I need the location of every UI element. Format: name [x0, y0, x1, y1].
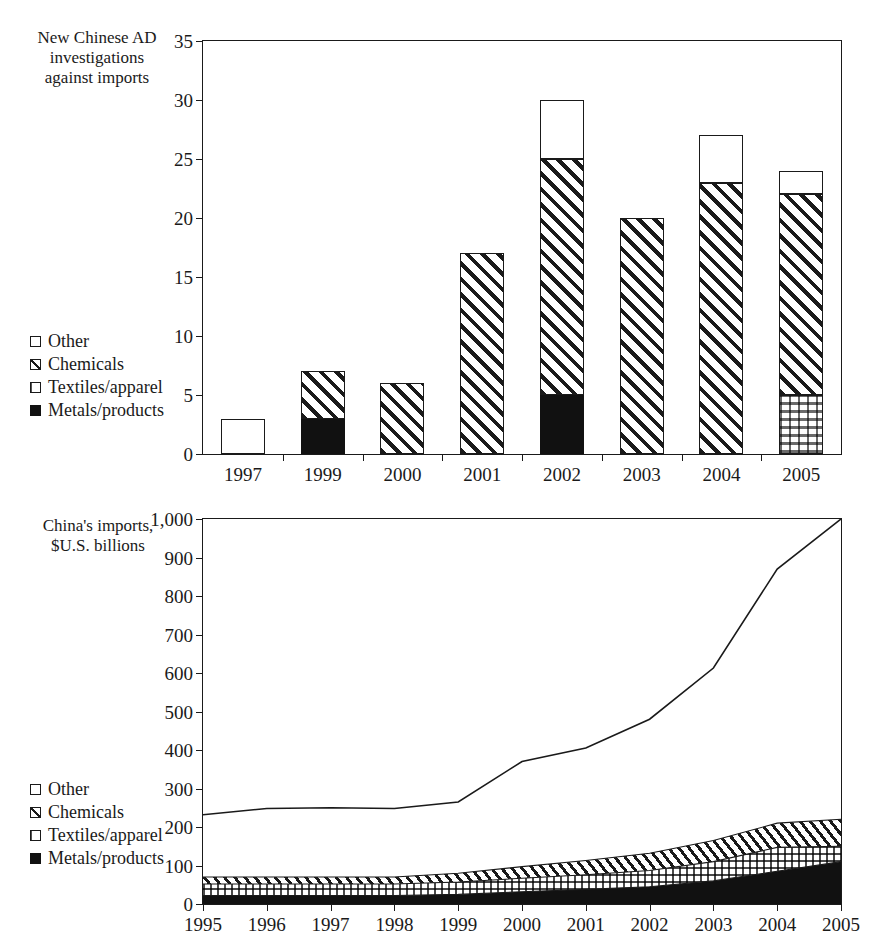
bar-stack[interactable]: [699, 135, 743, 454]
y-axis-tick: [196, 635, 203, 636]
bar-stack[interactable]: [620, 218, 664, 454]
x-axis-tick-label: 2005: [822, 915, 860, 934]
bar-segment-chemicals: [301, 371, 345, 418]
y-axis-tick-label: 10: [174, 327, 193, 346]
x-axis-tick: [761, 454, 762, 461]
y-axis-tick-label: 600: [165, 664, 194, 683]
y-axis-tick: [196, 218, 203, 219]
x-axis-tick: [267, 904, 268, 911]
boundary-textiles: [203, 846, 841, 884]
square-chemicals-icon: [30, 359, 41, 370]
y-axis-tick-label: 0: [184, 445, 194, 464]
x-axis-tick: [442, 454, 443, 461]
x-axis-tick: [203, 904, 204, 911]
y-axis-tick: [196, 750, 203, 751]
bar-segment-other: [540, 100, 584, 159]
y-axis-tick-label: 5: [184, 386, 194, 405]
y-axis-tick: [196, 277, 203, 278]
legend-label-other: Other: [48, 778, 89, 801]
y-axis-tick: [196, 41, 203, 42]
bar-segment-chemicals: [620, 218, 664, 454]
top-chart-plot-area: 0510152025303519971999200020012002200320…: [202, 40, 842, 455]
bar-segment-other: [221, 419, 265, 454]
x-axis-tick-label: 2000: [383, 465, 421, 484]
x-axis-tick: [777, 904, 778, 911]
y-axis-tick: [196, 904, 203, 905]
bar-stack[interactable]: [380, 383, 424, 454]
legend-label-metals: Metals/products: [48, 847, 164, 870]
y-axis-tick: [196, 519, 203, 520]
x-axis-tick-label: 1997: [312, 915, 350, 934]
bar-segment-chemicals: [699, 183, 743, 454]
bar-segment-other: [779, 171, 823, 195]
y-axis-tick-label: 35: [174, 32, 193, 51]
bar-stack[interactable]: [301, 371, 345, 454]
y-axis-tick: [196, 827, 203, 828]
y-axis-tick-label: 800: [165, 587, 194, 606]
y-axis-tick: [196, 866, 203, 867]
y-axis-tick-label: 100: [165, 856, 194, 875]
legend-item-textiles: Textiles/apparel: [30, 376, 164, 399]
x-axis-tick-label: 1998: [375, 915, 413, 934]
legend-item-other: Other: [30, 778, 164, 801]
x-axis-tick: [331, 904, 332, 911]
y-axis-tick-label: 200: [165, 818, 194, 837]
x-axis-tick: [841, 904, 842, 911]
x-axis-tick: [394, 904, 395, 911]
legend-label-chemicals: Chemicals: [48, 801, 124, 824]
legend-label-textiles: Textiles/apparel: [48, 824, 163, 847]
y-axis-tick-label: 30: [174, 91, 193, 110]
line-overlay: [203, 519, 841, 904]
legend-item-metals: Metals/products: [30, 399, 164, 422]
x-axis-tick-label: 2001: [567, 915, 605, 934]
x-axis-tick-label: 1999: [439, 915, 477, 934]
bar-stack[interactable]: [779, 171, 823, 454]
bar-segment-chemicals: [779, 194, 823, 395]
x-axis-tick: [363, 454, 364, 461]
bar-segment-textiles: [779, 395, 823, 454]
y-axis-tick-label: 300: [165, 779, 194, 798]
x-axis-tick-label: 2005: [782, 465, 820, 484]
x-axis-tick: [458, 904, 459, 911]
x-axis-tick-label: 2002: [543, 465, 581, 484]
y-axis-tick: [196, 673, 203, 674]
y-axis-tick-label: 25: [174, 150, 193, 169]
x-axis-tick: [682, 454, 683, 461]
bar-stack[interactable]: [460, 253, 504, 454]
x-axis-tick-label: 1995: [184, 915, 222, 934]
y-axis-tick-label: 400: [165, 741, 194, 760]
legend-label-textiles: Textiles/apparel: [48, 376, 163, 399]
legend-label-chemicals: Chemicals: [48, 353, 124, 376]
y-axis-tick: [196, 558, 203, 559]
legend-item-metals: Metals/products: [30, 847, 164, 870]
y-axis-tick-label: 700: [165, 625, 194, 644]
x-axis-tick-label: 2004: [702, 465, 740, 484]
bar-segment-chemicals: [540, 159, 584, 395]
square-metals-icon: [30, 853, 41, 864]
y-axis-tick-label: 900: [165, 548, 194, 567]
y-axis-tick: [196, 712, 203, 713]
x-axis-tick: [602, 454, 603, 461]
x-axis-tick-label: 2003: [623, 465, 661, 484]
y-axis-tick: [196, 159, 203, 160]
total-imports-line: [203, 519, 841, 815]
x-axis-tick-label: 1999: [304, 465, 342, 484]
y-axis-tick-label: 0: [184, 895, 194, 914]
x-axis-tick: [650, 904, 651, 911]
bar-stack[interactable]: [221, 419, 265, 454]
y-axis-tick: [196, 336, 203, 337]
y-axis-tick-label: 500: [165, 702, 194, 721]
square-other-icon: [30, 784, 41, 795]
y-axis-tick: [196, 395, 203, 396]
x-axis-tick-label: 2002: [631, 915, 669, 934]
y-axis-tick: [196, 789, 203, 790]
x-axis-tick-label: 2000: [503, 915, 541, 934]
bar-segment-metals: [301, 419, 345, 454]
bar-stack[interactable]: [540, 100, 584, 454]
y-axis-tick-label: 15: [174, 268, 193, 287]
y-axis-tick: [196, 596, 203, 597]
legend-item-chemicals: Chemicals: [30, 801, 164, 824]
square-textiles-icon: [30, 382, 41, 393]
y-axis-tick: [196, 100, 203, 101]
square-other-icon: [30, 336, 41, 347]
